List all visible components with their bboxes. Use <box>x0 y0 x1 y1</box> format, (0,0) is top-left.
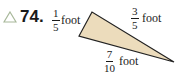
side-b-fraction: 3 5 <box>131 6 139 31</box>
side-c-unit: foot <box>119 55 138 67</box>
side-b-unit: foot <box>142 12 161 24</box>
side-c-fraction: 7 10 <box>104 49 115 74</box>
